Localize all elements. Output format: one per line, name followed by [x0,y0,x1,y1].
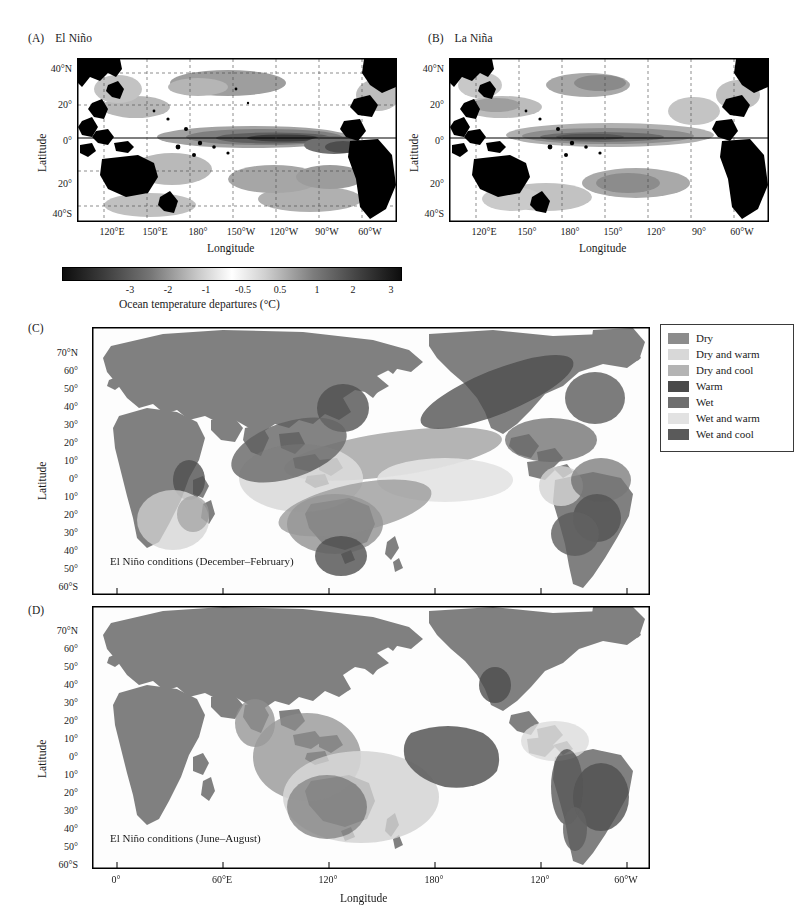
panel-d-ytick-5: 20° [30,715,78,726]
panel-a-title: El Niño [55,32,92,44]
panel-a-ytick-2: 0° [34,135,72,146]
panel-d-ytick-11: 40° [30,823,78,834]
colorbar-tick-7: 3 [378,284,404,295]
panel-d-map [92,606,650,869]
panel-c-ytick-9: 20° [30,509,78,520]
legend-swatch-wet-and-warm [668,413,689,424]
legend-swatch-dry [668,333,689,344]
colorbar [62,267,402,281]
panel-c-ytick-0: 70°N [30,347,78,358]
colorbar-tick-0: -3 [117,284,143,295]
panel-c-ytick-11: 40° [30,545,78,556]
panel-c-ytick-10: 30° [30,527,78,538]
panel-c-ytick-2: 50° [30,383,78,394]
panel-d-ytick-0: 70°N [30,625,78,636]
legend-swatch-dry-and-cool [668,365,689,376]
panel-d-ytick-8: 10° [30,769,78,780]
panel-d-world-svg [93,607,649,868]
legend-label-dry-and-warm: Dry and warm [696,349,760,360]
panel-a-xlabel: Longitude [207,242,254,254]
panel-a-letter: (A) [28,32,44,44]
panel-a-ytick-0: 40°N [34,63,72,74]
panel-a-ytick-3: 20° [34,178,72,189]
panel-b-ytick-1: 20° [406,99,444,110]
panel-c-ytick-1: 60° [30,365,78,376]
panel-b-ytick-3: 20° [406,178,444,189]
legend-label-warm: Warm [696,381,723,392]
panel-b-xlabel: Longitude [579,242,626,254]
panel-d-xlabel: Longitude [340,892,387,904]
panel-d-ytick-12: 50° [30,841,78,852]
legend-item-wet: Wet [668,395,785,410]
panel-c-ytick-3: 40° [30,401,78,412]
legend-swatch-warm [668,381,689,392]
panel-b-letter: (B) [428,32,444,44]
colorbar-label: Ocean temperature departures (°C) [119,298,280,310]
panel-a-sst-svg [78,59,396,221]
panel-c-ytick-12: 50° [30,563,78,574]
panel-d-ytick-2: 50° [30,661,78,672]
panel-d-ytick-9: 20° [30,787,78,798]
panel-a-ytick-1: 20° [34,99,72,110]
legend-item-wet-and-cool: Wet and cool [668,427,785,442]
panel-d-ytick-3: 40° [30,679,78,690]
legend-label-wet-and-cool: Wet and cool [696,429,754,440]
panel-d-tag: (D) [28,604,44,616]
panel-d-ytick-7: 0° [30,751,78,762]
panel-a-map [77,58,397,222]
colorbar-tick-4: 0.5 [264,284,296,295]
panel-c-ytick-6: 10° [30,455,78,466]
panel-a-ytick-4: 40°S [34,208,72,219]
colorbar-tick-1: -2 [155,284,181,295]
panel-d-ytick-13: 60°S [26,859,78,870]
panel-c-ytick-4: 30° [30,419,78,430]
legend-label-dry-and-cool: Dry and cool [696,365,753,376]
panel-d-xtick-5: 60°W [604,874,648,885]
legend-item-dry-and-cool: Dry and cool [668,363,785,378]
panel-b-sst-svg [450,59,768,221]
panel-c-caption: El Niño conditions (December–February) [110,555,294,567]
legend-swatch-wet-and-cool [668,429,689,440]
panel-d-xtick-1: 60°E [200,874,244,885]
colorbar-tick-3: -0.5 [227,284,259,295]
legend-box: Dry Dry and warm Dry and cool Warm Wet W… [660,324,794,452]
panel-d-ytick-6: 10° [30,733,78,744]
panel-b-xtick-6: 60°W [717,226,767,237]
panel-c-ytick-13: 60°S [26,581,78,592]
panel-b-map [449,58,769,222]
panel-d-xtick-2: 120° [306,874,350,885]
legend-swatch-dry-and-warm [668,349,689,360]
legend-swatch-wet [668,397,689,408]
panel-c-ytick-7: 0° [30,473,78,484]
panel-a-xtick-6: 60°W [345,226,395,237]
panel-b-tag: (B) La Niña [428,32,493,44]
colorbar-tick-6: 2 [340,284,366,295]
legend-label-dry: Dry [696,333,713,344]
panel-d-xtick-3: 180° [412,874,456,885]
panel-b-ytick-4: 40°S [406,208,444,219]
panel-d-xtick-0: 0° [94,874,138,885]
colorbar-gradient [63,268,401,280]
panel-d-ytick-4: 30° [30,697,78,708]
panel-c-tag: (C) [28,322,44,334]
panel-b-ytick-0: 40°N [406,63,444,74]
panel-d-caption: El Niño conditions (June–August) [110,832,261,844]
legend-item-warm: Warm [668,379,785,394]
panel-b-ytick-2: 0° [406,135,444,146]
colorbar-tick-2: -1 [193,284,219,295]
panel-c-ytick-8: 10° [30,491,78,502]
colorbar-tick-5: 1 [304,284,330,295]
legend-label-wet: Wet [696,397,713,408]
panel-b-title: La Niña [455,32,493,44]
legend-item-wet-and-warm: Wet and warm [668,411,785,426]
legend-label-wet-and-warm: Wet and warm [696,413,760,424]
panel-c-ytick-5: 20° [30,437,78,448]
legend-item-dry-and-warm: Dry and warm [668,347,785,362]
panel-d-ytick-10: 30° [30,805,78,816]
panel-a-tag: (A) El Niño [28,32,92,44]
panel-d-xtick-4: 120° [518,874,562,885]
legend-item-dry: Dry [668,331,785,346]
panel-d-ytick-1: 60° [30,643,78,654]
